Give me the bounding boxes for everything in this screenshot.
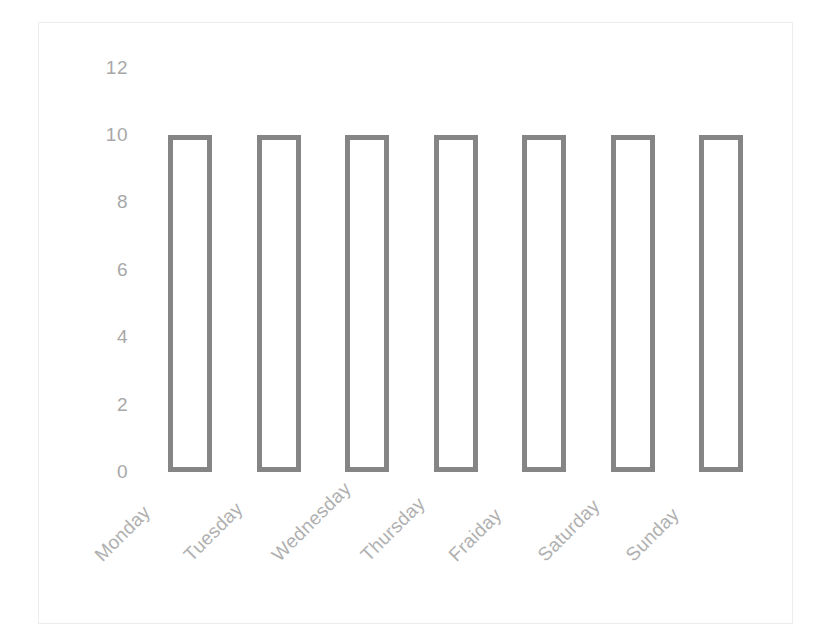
bar [345, 135, 389, 472]
bar [257, 135, 301, 472]
bar [434, 135, 478, 472]
bar [611, 135, 655, 472]
bar [522, 135, 566, 472]
bar-chart: 024681012 MondayTuesdayWednesdayThursday… [0, 0, 833, 644]
bar [699, 135, 743, 472]
bar [168, 135, 212, 472]
bars-layer [0, 0, 833, 644]
